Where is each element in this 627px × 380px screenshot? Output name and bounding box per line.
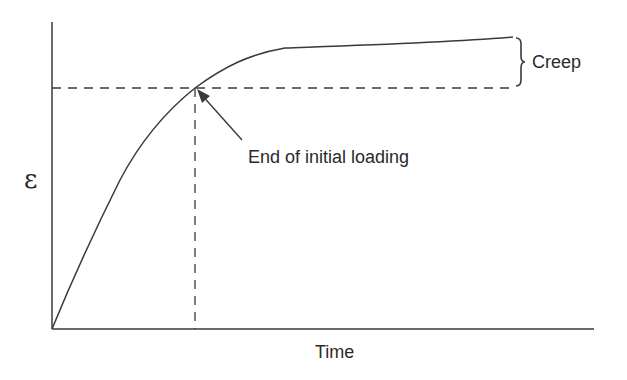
arrow-head-icon [197,89,210,103]
creep-annotation: Creep [532,53,581,71]
y-axis-label: ε [24,166,37,192]
creep-brace-icon [516,38,525,86]
annotation-arrow-line [200,93,242,140]
creep-diagram: ε Time End of initial loading Creep [0,0,627,380]
loading-end-annotation: End of initial loading [248,148,409,166]
x-axis-label: Time [315,343,354,361]
strain-curve [52,37,513,329]
